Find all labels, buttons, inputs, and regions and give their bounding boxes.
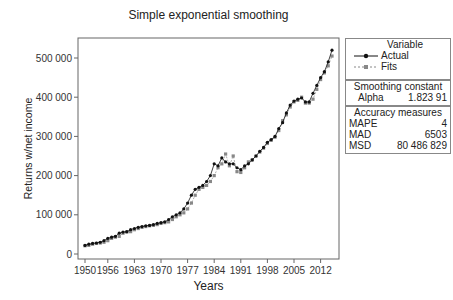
x-tick-label: 1956 [97,265,120,276]
actual-point [323,70,326,73]
fits-point [171,218,174,221]
mad-value: 6503 [425,129,447,140]
fits-point [311,98,314,101]
accuracy-measures-box: Accuracy measures MAPE4 MAD6503 MSD80 48… [345,106,451,154]
actual-point [95,241,98,244]
actual-point [125,230,128,233]
y-tick-label: 100 000 [36,209,73,220]
smoothing-constant-box: Smoothing constant Alpha 1.823 91 [345,80,451,106]
x-tick-label: 1991 [230,265,253,276]
actual-point [277,127,280,130]
fits-point [190,201,193,204]
actual-point [83,244,86,247]
actual-point [209,174,212,177]
legend-item-actual: Actual [346,50,450,61]
actual-point [232,162,235,165]
smoothing-title: Smoothing constant [346,81,450,92]
actual-point [140,225,143,228]
actual-point [251,158,254,161]
actual-line-marker-icon [354,51,378,61]
actual-point [311,92,314,95]
actual-point [182,207,185,210]
msd-value: 80 486 829 [397,140,447,151]
actual-point [270,138,273,141]
actual-point [258,150,261,153]
fits-point [213,174,216,177]
fits-point [239,171,242,174]
x-tick-label: 1963 [123,265,146,276]
actual-point [201,184,204,187]
actual-point [194,188,197,191]
actual-point [213,162,216,165]
legend-item-fits: Fits [346,61,450,72]
actual-point [91,242,94,245]
actual-point [220,156,223,159]
actual-point [121,230,124,233]
actual-point [118,232,121,235]
mape-label: MAPE [349,118,377,129]
actual-point [171,215,174,218]
actual-point [102,239,105,242]
actual-point [106,237,109,240]
fits-point [220,162,223,165]
actual-point [224,160,227,163]
x-tick-label: 1998 [256,265,279,276]
actual-point [205,180,208,183]
x-axis-label: Years [193,279,223,293]
actual-point [254,154,257,157]
alpha-value: 1.823 91 [408,92,447,103]
fits-point [186,207,189,210]
actual-point [308,100,311,103]
actual-point [137,226,140,229]
fits-point [209,180,212,183]
actual-point [129,228,132,231]
actual-point [190,194,193,197]
mape-value: 4 [441,118,447,129]
actual-point [281,121,284,124]
y-axis-label: Returns w/net income [22,98,34,200]
actual-point [175,213,178,216]
fits-point [194,194,197,197]
actual-point [228,162,231,165]
msd-label: MSD [349,140,371,151]
fits-point [232,154,235,157]
fits-line [85,56,332,246]
fits-point [182,211,185,214]
actual-point [133,227,136,230]
actual-point [330,49,333,52]
actual-point [319,76,322,79]
x-tick-label: 1984 [203,265,226,276]
x-tick-label: 1970 [150,265,173,276]
actual-point [163,220,166,223]
actual-point [315,84,318,87]
actual-point [216,164,219,167]
actual-point [186,201,189,204]
accuracy-title: Accuracy measures [346,107,450,118]
x-tick-label: 1950 [74,265,97,276]
actual-point [292,100,295,103]
legend: Variable Actual Fits [345,38,451,80]
actual-point [296,98,299,101]
actual-point [197,186,200,189]
actual-point [262,146,265,149]
fits-line-marker-icon [354,62,378,72]
actual-point [239,168,242,171]
actual-point [114,235,117,238]
actual-point [144,224,147,227]
fits-point [118,235,121,238]
legend-title: Variable [346,39,450,50]
actual-point [178,211,181,214]
y-tick-label: 500 000 [36,53,73,64]
actual-point [235,166,238,169]
actual-point [289,103,292,106]
fits-point [224,152,227,155]
alpha-label: Alpha [358,92,384,103]
actual-point [327,60,330,63]
actual-point [87,243,90,246]
y-tick-label: 200 000 [36,170,73,181]
actual-point [99,241,102,244]
plot-frame [78,38,339,259]
actual-point [167,218,170,221]
actual-point [159,221,162,224]
actual-point [273,135,276,138]
